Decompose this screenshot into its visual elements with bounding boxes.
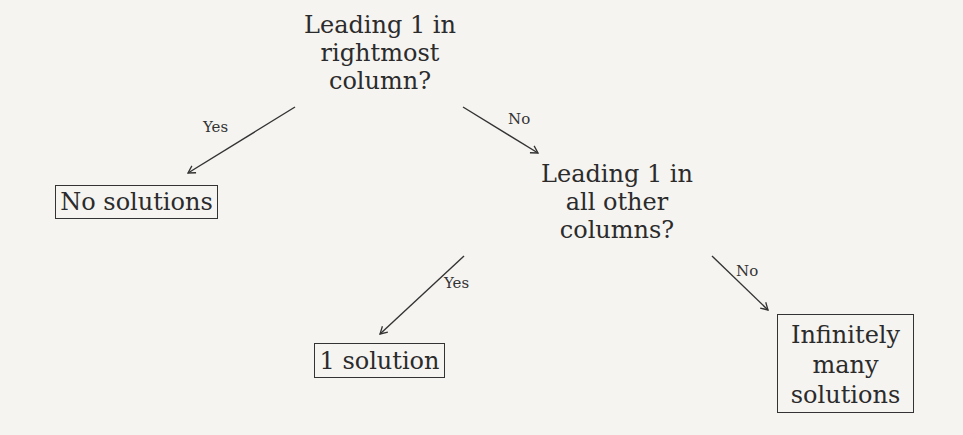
node-line: column? <box>300 67 460 95</box>
result-box-one-solution: 1 solution <box>314 343 445 378</box>
edge-label-yes: Yes <box>203 118 228 136</box>
node-line: Leading 1 in <box>300 11 460 39</box>
question-node-rightmost-column: Leading 1 in rightmost column? <box>300 11 460 95</box>
edge-q2-yes-arrow <box>380 256 464 334</box>
box-text: 1 solution <box>315 347 444 375</box>
question-node-other-columns: Leading 1 in all other columns? <box>537 160 697 244</box>
edge-label-no: No <box>736 262 758 280</box>
box-text: No solutions <box>56 188 217 216</box>
edge-q1-yes-arrow <box>188 107 295 173</box>
decision-tree-diagram: Leading 1 in rightmost column? Yes No No… <box>0 0 963 435</box>
box-text: solutions <box>778 380 913 410</box>
edge-label-no: No <box>508 110 530 128</box>
box-text: many <box>778 350 913 380</box>
edge-label-yes: Yes <box>444 274 469 292</box>
node-line: Leading 1 in <box>537 160 697 188</box>
node-line: rightmost <box>300 39 460 67</box>
result-box-infinitely-many-solutions: Infinitely many solutions <box>777 314 914 413</box>
node-line: all other <box>537 188 697 216</box>
node-line: columns? <box>537 216 697 244</box>
result-box-no-solutions: No solutions <box>55 185 218 219</box>
box-text: Infinitely <box>778 320 913 350</box>
